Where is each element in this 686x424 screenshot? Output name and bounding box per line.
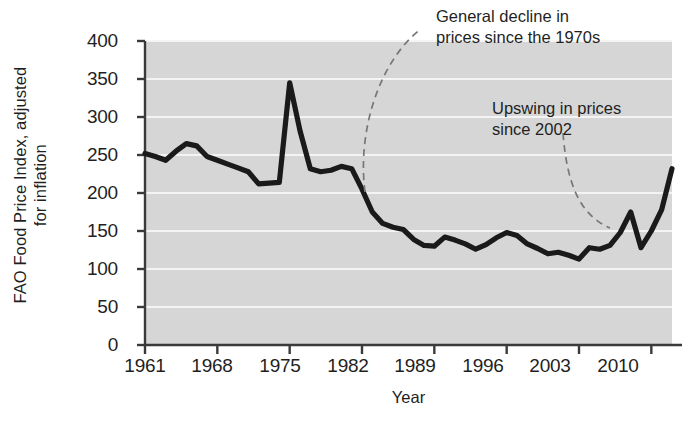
annotation-general-decline: General decline in prices since the 1970… [436,6,600,48]
annotation-decline-line1: General decline in [436,6,600,27]
plot-area [0,0,686,424]
annotation-upswing-line1: Upswing in prices [492,98,621,119]
annotation-upswing-line2: since 2002 [492,119,621,140]
chart-figure: FAO Food Price Index, adjusted for infla… [0,0,686,424]
annotation-decline-line2: prices since the 1970s [436,27,600,48]
annotation-upswing: Upswing in prices since 2002 [492,98,621,140]
